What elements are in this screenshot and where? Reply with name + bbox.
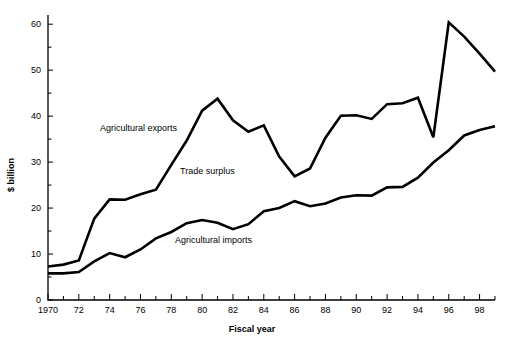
x-tick-label: 94: [413, 305, 423, 315]
line-chart: 0102030405060 19707274767880828486889092…: [0, 0, 505, 343]
x-tick-label: 72: [74, 305, 84, 315]
x-axis-title: Fiscal year: [229, 324, 276, 334]
axes-group: [48, 15, 495, 300]
x-tick-label: 90: [351, 305, 361, 315]
x-tick-label: 82: [228, 305, 238, 315]
x-tick-label: 96: [444, 305, 454, 315]
x-tick-label: 92: [382, 305, 392, 315]
x-tick-label: 86: [290, 305, 300, 315]
x-tick-label: 78: [166, 305, 176, 315]
y-tick-label: 60: [31, 19, 41, 29]
series-annotation-2: Agricultural imports: [175, 235, 253, 245]
y-axis-title: $ billion: [6, 158, 16, 192]
x-tick-label: 88: [320, 305, 330, 315]
y-tick-label: 30: [31, 157, 41, 167]
x-tick-label: 98: [475, 305, 485, 315]
y-tick-label: 50: [31, 65, 41, 75]
x-tick-label: 1970: [38, 305, 58, 315]
x-tick-label: 76: [135, 305, 145, 315]
y-tick-label: 0: [36, 295, 41, 305]
axis-lines: [48, 15, 495, 300]
series-line-exports: [48, 22, 495, 266]
y-tick-label: 10: [31, 249, 41, 259]
y-tick-label: 40: [31, 111, 41, 121]
chart-container: 0102030405060 19707274767880828486889092…: [0, 0, 505, 343]
x-tick-group: 19707274767880828486889092949698: [38, 294, 495, 315]
y-tick-group: 0102030405060: [31, 19, 53, 305]
x-tick-label: 74: [105, 305, 115, 315]
series-annotation-1: Trade surplus: [180, 166, 235, 176]
series-group: [48, 22, 495, 273]
x-tick-label: 80: [197, 305, 207, 315]
y-tick-label: 20: [31, 203, 41, 213]
x-tick-label: 84: [259, 305, 269, 315]
series-annotation-0: Agricultural exports: [100, 123, 178, 133]
